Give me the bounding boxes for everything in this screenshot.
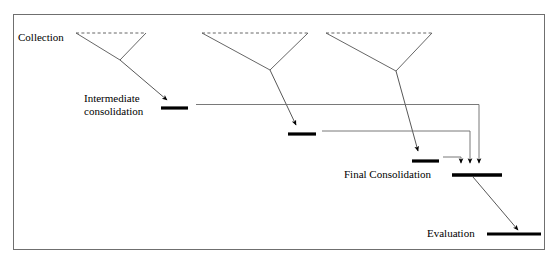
label-final-consolidation: Final Consolidation	[344, 168, 432, 180]
process-diagram: Collection Intermediate consolidation Fi…	[0, 0, 557, 264]
figure-border	[14, 15, 545, 250]
tree-2-left-leg	[202, 33, 270, 70]
collection-tree-2	[202, 33, 308, 125]
diagram-canvas: Collection Intermediate consolidation Fi…	[0, 0, 557, 264]
connector-bar1-to-final	[196, 105, 479, 164]
connector-bar2-to-final	[322, 131, 470, 163]
tree-2-stem-arrow	[270, 70, 296, 125]
label-intermediate-consolidation-line2: consolidation	[84, 105, 144, 117]
connector-paths	[196, 105, 479, 164]
label-evaluation: Evaluation	[427, 227, 475, 239]
label-collection: Collection	[18, 31, 64, 43]
collection-tree-3	[326, 33, 432, 151]
tree-1-right-leg	[120, 33, 146, 60]
tree-3-right-leg	[396, 33, 432, 71]
tree-1-left-leg	[76, 33, 120, 60]
tree-3-left-leg	[326, 33, 396, 71]
collection-tree-1	[76, 33, 167, 100]
tree-2-right-leg	[270, 33, 308, 70]
connector-bar3-to-final	[443, 157, 461, 163]
tree-3-stem-arrow	[396, 71, 418, 151]
final-consolidation-to-evaluation-arrow	[473, 177, 518, 230]
label-intermediate-consolidation-line1: Intermediate	[84, 92, 140, 104]
